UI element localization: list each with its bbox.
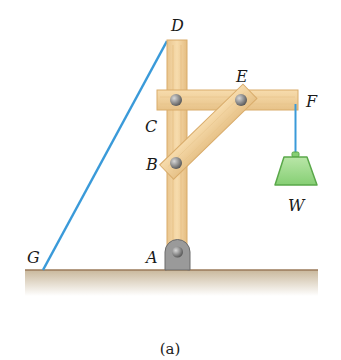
label-g: G xyxy=(27,248,40,267)
pin-b xyxy=(170,157,182,169)
label-a: A xyxy=(144,248,158,267)
label-c: C xyxy=(145,117,157,136)
ground xyxy=(25,270,318,296)
pin-e xyxy=(235,94,247,106)
weight-w xyxy=(275,152,317,185)
label-e: E xyxy=(235,67,248,86)
frame-diagram: D E F C B W G A (a) xyxy=(0,0,341,360)
pin-support-a xyxy=(165,240,190,271)
label-w: W xyxy=(288,196,306,215)
label-b: B xyxy=(145,155,158,174)
label-d: D xyxy=(170,16,184,35)
pin-c xyxy=(170,94,182,106)
figure-caption: (a) xyxy=(160,340,181,358)
label-f: F xyxy=(305,92,318,111)
